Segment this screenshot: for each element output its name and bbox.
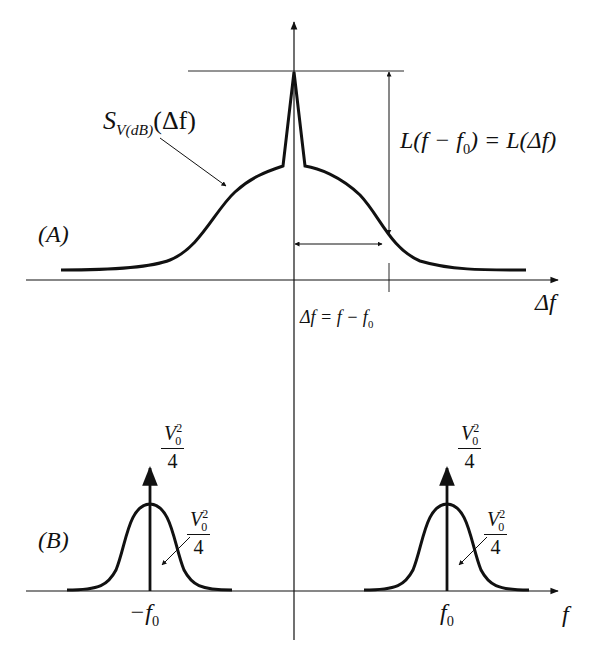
curve-label-sub: V(dB) — [116, 121, 153, 138]
denominator: 4 — [194, 535, 204, 557]
right-impulse-label: V204 — [458, 422, 481, 471]
offset-definition-label: Δf = f − f0 — [300, 308, 373, 329]
ratio-label-end: ) = L(Δf) — [470, 127, 556, 153]
right-center-text: f — [440, 599, 447, 625]
curve-label-main: S — [103, 106, 116, 135]
right-center-label: f0 — [440, 600, 454, 628]
curve-label-pointer — [160, 138, 226, 186]
left-impulse-label: V204 — [161, 422, 184, 471]
panel-a-x-axis-label: Δf — [535, 290, 556, 314]
right-lobe-label: V204 — [484, 508, 507, 557]
panel-b-x-axis-label: f — [562, 602, 569, 626]
right-center-sub: 0 — [447, 613, 454, 629]
offset-definition-sub: 0 — [368, 318, 373, 330]
ratio-label-sub: 0 — [463, 141, 470, 157]
subscript: 0 — [498, 520, 504, 534]
denominator: 4 — [168, 449, 178, 471]
subscript: 0 — [175, 434, 181, 448]
curve-label-arg: (Δf) — [153, 106, 196, 135]
denominator: 4 — [465, 449, 475, 471]
panel-b-label: (B) — [38, 528, 69, 552]
panel-a-label: (A) — [38, 222, 69, 246]
exponent: 2 — [499, 507, 505, 521]
offset-definition-text: Δf = f − f — [300, 307, 368, 327]
exponent: 2 — [473, 421, 479, 435]
ratio-label: L(f − f0) = L(Δf) — [400, 128, 556, 156]
exponent: 2 — [202, 507, 208, 521]
left-lobe-label: V204 — [187, 508, 210, 557]
denominator: 4 — [491, 535, 501, 557]
subscript: 0 — [201, 520, 207, 534]
exponent: 2 — [176, 421, 182, 435]
left-center-text: −f — [129, 599, 152, 625]
left-center-label: −f0 — [129, 600, 159, 628]
left-center-sub: 0 — [152, 613, 159, 629]
ratio-label-start: L(f − f — [400, 127, 463, 153]
panel-b — [26, 468, 558, 591]
curve-label: SV(dB)(Δf) — [103, 108, 196, 138]
subscript: 0 — [472, 434, 478, 448]
